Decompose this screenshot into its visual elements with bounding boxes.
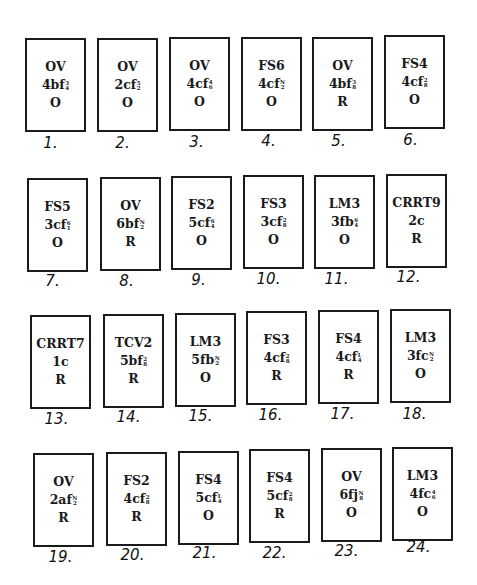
card-number: 2. [92, 134, 153, 152]
card-label: LM3 [316, 195, 373, 213]
card-23: OV6fjN8O [321, 448, 382, 542]
card-content: FS24cf28R [108, 472, 165, 526]
card-24: LM34fc46O [392, 447, 453, 541]
card-label: CRRT9 [388, 194, 445, 212]
card-code-row: 4cf28 [108, 490, 165, 508]
card-fraction: 64 [354, 218, 358, 228]
card-7: FS53cf61O [27, 178, 88, 272]
card-status: O [29, 234, 86, 252]
fraction-bottom: 2 [215, 361, 220, 366]
card-18: LM33fcN2O [390, 309, 451, 403]
card-number: 23. [316, 542, 377, 560]
card-status: R [314, 93, 371, 111]
card-content: LM34fc46O [394, 467, 451, 521]
card-content: OV4cf46O [171, 57, 228, 111]
card-status: O [99, 94, 156, 112]
card-code: 4fc [409, 485, 431, 503]
card-content: CRRT71cR [32, 335, 89, 389]
fraction-bottom: 4 [218, 499, 222, 504]
card-content: FS64cfN2O [243, 57, 300, 111]
card-code-row: 3cf28 [245, 213, 302, 231]
fraction-bottom: 8 [146, 500, 150, 505]
card-code-row: 4fc46 [394, 485, 451, 503]
card-content: OV6bfN2R [102, 197, 159, 251]
fraction-bottom: 2 [137, 86, 141, 91]
card-content: OV2afN2R [35, 473, 92, 527]
card-3: OV4cf46O [169, 37, 230, 131]
card-status: R [248, 367, 305, 385]
card-content: FS25cf64O [173, 196, 230, 250]
card-label: FS2 [108, 472, 165, 490]
card-15: LM35fbN2O [175, 313, 236, 407]
card-code: 3fb [331, 213, 354, 231]
card-label: FS5 [29, 198, 86, 216]
card-13: CRRT71cR [30, 315, 91, 409]
card-number: 8. [96, 272, 157, 290]
card-code-row: 5cf28 [251, 487, 308, 505]
card-code-row: 2afN2 [35, 491, 92, 509]
card-fraction: 28 [424, 78, 428, 88]
card-fraction: 28 [289, 492, 293, 502]
card-code-row: 5bf28 [105, 352, 162, 370]
card-code: 3fc [407, 347, 429, 365]
card-fraction: N8 [359, 491, 364, 501]
card-fraction: 64 [211, 219, 215, 229]
card-code-row: 3cf61 [29, 216, 86, 234]
card-code: 2cf [114, 76, 136, 94]
card-label: OV [314, 57, 371, 75]
fraction-bottom: 1 [67, 226, 71, 231]
card-content: FS33cf28O [245, 195, 302, 249]
card-status: O [392, 365, 449, 383]
card-status: O [173, 232, 230, 250]
card-1: OV4bf34O [25, 38, 86, 132]
card-code: 4cf [401, 73, 423, 91]
card-fraction: N2 [215, 356, 220, 366]
card-number: 24. [388, 538, 449, 556]
card-content: CRRT92cR [388, 194, 445, 248]
card-content: LM33fcN2O [392, 329, 449, 383]
card-number: 22. [244, 544, 305, 562]
card-label: OV [27, 58, 84, 76]
card-code-row: 6bfN2 [102, 215, 159, 233]
card-content: FS53cf61O [29, 198, 86, 252]
card-label: FS4 [386, 55, 443, 73]
card-8: OV6bfN2R [100, 177, 161, 271]
card-status: O [180, 507, 237, 525]
card-status: O [394, 503, 451, 521]
card-status: R [320, 366, 377, 384]
card-code: 4cf [263, 349, 285, 367]
card-label: LM3 [392, 329, 449, 347]
fraction-bottom: 8 [286, 359, 290, 364]
card-fraction: 61 [67, 221, 71, 231]
fraction-bottom: 2 [72, 501, 77, 506]
card-code-row: 5cfL4 [180, 489, 237, 507]
card-content: FS45cf28R [251, 469, 308, 523]
card-number: 5. [308, 132, 369, 150]
fraction-bottom: 6 [432, 495, 436, 500]
card-status: O [316, 231, 373, 249]
card-fraction: 46 [432, 490, 436, 500]
card-content: FS45cfL4O [180, 471, 237, 525]
fraction-bottom: 8 [143, 362, 147, 367]
card-code-row: 5fbN2 [177, 351, 234, 369]
card-number: 20. [102, 546, 163, 564]
card-label: LM3 [394, 467, 451, 485]
card-label: OV [323, 468, 380, 486]
card-number: 6. [380, 131, 441, 149]
card-code: 4bf [329, 75, 352, 93]
card-number: 3. [166, 133, 227, 151]
card-14: TCV25bf28R [103, 314, 164, 408]
card-status: O [171, 93, 228, 111]
card-number: 15. [170, 407, 231, 425]
fraction-bottom: 6 [209, 85, 213, 90]
card-10: FS33cf28O [243, 175, 304, 269]
card-code-row: 6fjN8 [323, 486, 380, 504]
card-label: TCV2 [105, 334, 162, 352]
card-code-row: 4cf28 [248, 349, 305, 367]
card-code: 4cf [123, 490, 145, 508]
card-code-row: 2c [388, 212, 445, 230]
card-code-row: 4cfL4 [320, 348, 377, 366]
card-label: FS4 [180, 471, 237, 489]
card-code-row: 5cf64 [173, 214, 230, 232]
card-number: 12. [378, 268, 439, 286]
